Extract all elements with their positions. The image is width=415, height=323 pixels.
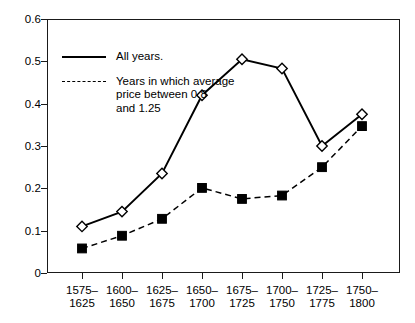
x-axis-tick-mark [82,273,83,279]
legend-item-restricted-years: Years in which average price between 0.8… [62,75,234,116]
x-axis-tick-label: 1600–1650 [106,284,138,310]
x-axis-tick-label: 1575–1625 [66,284,98,310]
chart-container: 00.10.20.30.40.50.6 1575–16251600–165016… [0,0,415,323]
legend-item-all-years: All years. [62,50,234,64]
x-axis-tick-mark [122,273,123,279]
legend-label-all-years: All years. [116,50,234,64]
legend-swatch-solid-line [62,56,106,58]
x-axis-tick-mark [362,273,363,279]
x-axis-tick-label: 1625–1675 [146,284,178,310]
x-axis-tick-label: 1750–1800 [346,284,378,310]
x-axis: 1575–16251600–16501625–16751650–17001675… [0,0,415,323]
legend-swatch-dashed-line [62,81,106,82]
x-axis-tick-mark [322,273,323,279]
x-axis-tick-mark [282,273,283,279]
chart-legend: All years. Years in which average price … [62,50,234,126]
x-axis-tick-label: 1675–1725 [226,284,258,310]
x-axis-tick-mark [242,273,243,279]
x-axis-tick-label: 1700–1750 [266,284,298,310]
x-axis-tick-label: 1725–1775 [306,284,338,310]
legend-label-restricted-years: Years in which average price between 0.8… [116,75,234,116]
x-axis-tick-mark [162,273,163,279]
x-axis-tick-label: 1650–1700 [186,284,218,310]
x-axis-tick-mark [202,273,203,279]
